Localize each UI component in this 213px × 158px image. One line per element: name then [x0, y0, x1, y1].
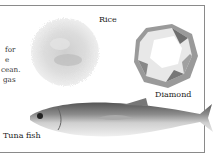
tuna-fish-label: Tuna fish [3, 131, 41, 140]
side-body-text: for e cean. gas [0, 45, 30, 85]
side-text-line: for [5, 45, 30, 55]
diamond-image [132, 24, 200, 88]
rice-label: Rice [99, 15, 117, 24]
side-text-line: gas [3, 75, 30, 85]
tuna-fish-image [28, 96, 213, 142]
side-text-line: cean. [1, 65, 30, 75]
side-text-line: e [5, 55, 30, 65]
rice-pile-image [28, 16, 102, 88]
